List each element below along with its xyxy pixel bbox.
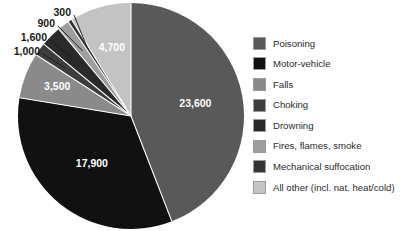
legend-swatch (253, 37, 266, 50)
legend-item-label: Poisoning (273, 39, 315, 49)
legend-swatch (253, 119, 266, 132)
legend-item[interactable]: Drowning (253, 115, 410, 136)
legend-item[interactable]: Poisoning (253, 33, 410, 54)
callout-value-label: 1,600 (21, 31, 47, 43)
callout-value-label: 900 (37, 17, 55, 29)
legend-item-label: All other (incl. nat. heat/cold) (273, 183, 395, 193)
legend-item[interactable]: Falls (253, 74, 410, 95)
legend-swatch (253, 181, 266, 194)
pie-chart: 23,60017,9003,5004,700 3009001,6001,000 … (0, 0, 410, 231)
slice-value-label: 23,600 (179, 97, 211, 109)
legend-item-label: Motor-vehicle (273, 59, 331, 69)
legend-swatch (253, 57, 266, 70)
legend-item-label: Falls (273, 80, 293, 90)
legend-swatch (253, 140, 266, 153)
callout-value-label: 1,000 (14, 45, 40, 57)
legend-item-label: Choking (273, 100, 308, 110)
legend-item[interactable]: All other (incl. nat. heat/cold) (253, 177, 410, 198)
legend-item-label: Fires, flames, smoke (273, 141, 362, 151)
legend-item-label: Drowning (273, 121, 314, 131)
slice-value-label: 17,900 (76, 157, 108, 169)
legend-item[interactable]: Choking (253, 95, 410, 116)
legend-swatch (253, 99, 266, 112)
legend-swatch (253, 160, 266, 173)
legend-item[interactable]: Motor-vehicle (253, 54, 410, 75)
legend-item[interactable]: Mechanical suffocation (253, 157, 410, 178)
legend-item[interactable]: Fires, flames, smoke (253, 136, 410, 157)
legend-swatch (253, 78, 266, 91)
callout-value-label: 300 (53, 6, 71, 18)
slice-value-label: 3,500 (44, 80, 70, 92)
legend-item-label: Mechanical suffocation (273, 162, 370, 172)
chart-legend: PoisoningMotor-vehicleFallsChokingDrowni… (253, 33, 410, 198)
slice-value-label: 4,700 (99, 41, 125, 53)
